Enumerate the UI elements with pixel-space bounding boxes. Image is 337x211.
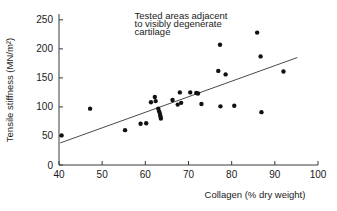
x-tick-label: 90 — [269, 169, 281, 180]
annotation-line: cartilage — [135, 26, 171, 37]
x-tick-label: 100 — [310, 169, 327, 180]
scatter-chart-figure: 050100150200250 405060708090100 Tested a… — [0, 0, 337, 211]
data-point — [138, 122, 142, 126]
y-tick-label: 150 — [36, 72, 53, 83]
x-tick-label: 80 — [226, 169, 238, 180]
data-point — [88, 106, 92, 110]
data-point — [216, 69, 220, 73]
data-point — [149, 100, 153, 104]
data-point — [153, 95, 157, 99]
y-axis-tick-labels: 050100150200250 — [36, 14, 53, 170]
y-axis-ticks — [59, 20, 63, 165]
chart-annotation: Tested areas adjacentto visibly degenera… — [135, 10, 228, 37]
data-point — [218, 104, 222, 108]
data-point — [59, 133, 63, 137]
data-point — [153, 99, 157, 103]
data-point — [188, 90, 192, 94]
data-point — [144, 121, 148, 125]
data-point — [123, 128, 127, 132]
x-tick-label: 50 — [97, 169, 109, 180]
data-point — [255, 30, 259, 34]
data-point — [179, 101, 183, 105]
data-point — [259, 110, 263, 114]
y-axis: 050100150200250 — [36, 14, 63, 171]
y-tick-label: 250 — [36, 14, 53, 25]
data-point — [199, 102, 203, 106]
data-point — [223, 72, 227, 76]
data-point — [178, 90, 182, 94]
regression-line — [60, 58, 297, 143]
x-tick-label: 60 — [140, 169, 152, 180]
data-points — [59, 30, 285, 137]
x-tick-label: 40 — [53, 169, 65, 180]
data-point — [196, 91, 200, 95]
data-point — [232, 104, 236, 108]
regression-line-segment — [60, 58, 297, 143]
x-axis-ticks — [59, 161, 318, 165]
data-point — [159, 116, 163, 120]
x-axis-tick-labels: 405060708090100 — [53, 169, 326, 180]
data-point — [218, 43, 222, 47]
chart-canvas: 050100150200250 405060708090100 Tested a… — [0, 0, 337, 211]
data-point — [281, 69, 285, 73]
x-axis-title: Collagen (% dry weight) — [205, 189, 306, 200]
y-tick-label: 200 — [36, 43, 53, 54]
data-point — [258, 54, 262, 58]
y-axis-title: Tensile stiffness (MN/m²) — [4, 38, 15, 142]
y-tick-label: 100 — [36, 101, 53, 112]
y-tick-label: 50 — [42, 130, 54, 141]
x-axis: 405060708090100 — [53, 161, 326, 180]
x-tick-label: 70 — [183, 169, 195, 180]
data-point — [170, 98, 174, 102]
